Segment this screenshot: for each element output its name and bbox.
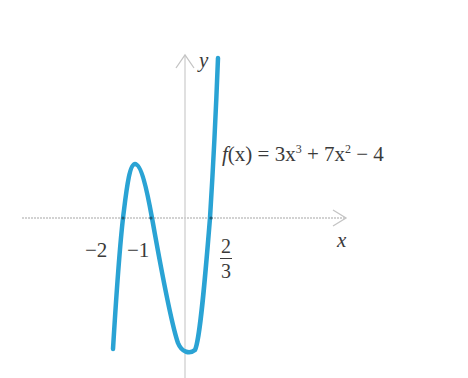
function-label: f(x) = 3x3 + 7x2 − 4 [222,143,384,165]
root-marker [149,216,152,219]
root-marker [121,216,124,219]
function-text-3: − 4 [351,142,384,166]
fraction-denominator: 3 [221,261,231,281]
tick-label-neg1: −1 [127,240,149,261]
fraction-numerator: 2 [221,236,231,256]
y-axis-label: y [199,50,208,71]
x-axis-label: x [337,230,346,251]
function-text-2: + 7x [302,142,345,166]
tick-label-neg2: −2 [85,240,107,261]
fraction-bar [220,258,232,259]
function-curve [113,58,218,352]
graph-canvas [0,0,468,378]
root-marker [209,216,212,219]
function-text: (x) = 3x [228,142,296,166]
tick-label-two-thirds: 2 3 [220,236,232,281]
